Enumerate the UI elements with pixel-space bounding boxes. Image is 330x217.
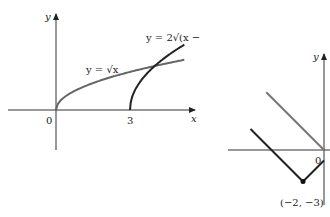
chart-abs: y 0 (−2, −3) [200, 30, 330, 217]
series-sqrt-x [56, 60, 184, 110]
vertex-label: (−2, −3) [280, 197, 324, 208]
y-axis-label: y [312, 51, 319, 62]
figure: x y 0 3 y = √x y = 2√(x − 3) y 0 (−2, −3… [0, 0, 330, 217]
series-abs-x [266, 92, 324, 150]
origin-label: 0 [46, 115, 52, 126]
vertex-point [301, 179, 306, 184]
chart-sqrt: x y 0 3 y = √x y = 2√(x − 3) [0, 0, 200, 160]
x-axis-label: x [191, 113, 197, 124]
series-2sqrt-x-3 [130, 45, 184, 110]
series-label-sqrt-x: y = √x [85, 64, 119, 75]
x-tick-label-3: 3 [127, 115, 133, 126]
y-axis-label: y [44, 11, 51, 22]
series-abs-shifted [251, 129, 325, 182]
series-label-2sqrt-x-3: y = 2√(x − 3) [145, 32, 200, 43]
